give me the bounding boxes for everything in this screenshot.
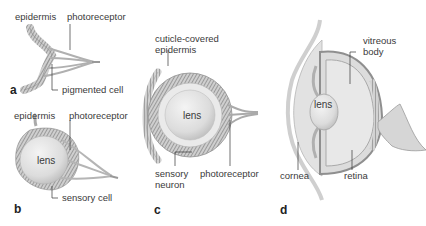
label-a-photoreceptor: photoreceptor	[67, 12, 126, 22]
label-d-vitreous-line1: vitreous	[363, 36, 396, 46]
label-b-epidermis: epidermis	[14, 111, 55, 121]
label-b-photoreceptor: photoreceptor	[69, 111, 128, 121]
label-a-epidermis: epidermis	[15, 12, 56, 22]
label-b-sensory-cell: sensory cell	[62, 193, 112, 203]
panel-c-camera-eye	[146, 50, 258, 166]
panel-a-cup-eye	[24, 24, 100, 90]
label-c-photoreceptor: photoreceptor	[200, 169, 259, 179]
label-c-lens: lens	[183, 111, 201, 121]
label-c-cuticle-line2: epidermis	[155, 45, 196, 55]
label-c-cuticle-line1: cuticle-covered	[155, 34, 219, 44]
label-d-cornea: cornea	[280, 171, 309, 181]
label-c-sensory-line1: sensory	[155, 169, 188, 179]
label-d-vitreous-line2: body	[363, 47, 384, 57]
label-d-retina: retina	[344, 171, 368, 181]
label-a-pigmented-cell: pigmented cell	[62, 85, 123, 95]
label-c-sensory-line2: neuron	[155, 180, 185, 190]
panel-letter-b: b	[14, 202, 21, 216]
label-b-lens: lens	[37, 156, 55, 166]
label-d-lens: lens	[314, 100, 332, 110]
panel-letter-a: a	[10, 83, 17, 97]
panel-letter-d: d	[280, 203, 287, 217]
panel-letter-c: c	[154, 203, 161, 217]
panel-b-lens-eye	[16, 114, 118, 198]
